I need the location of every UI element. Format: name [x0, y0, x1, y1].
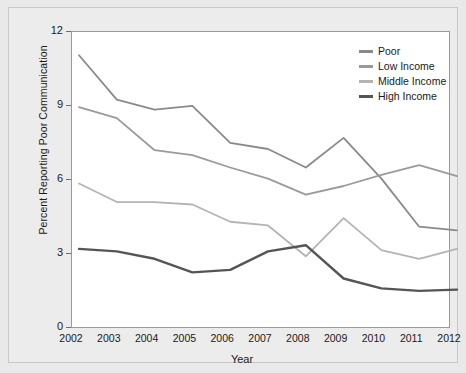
legend-label: High Income — [378, 90, 437, 102]
legend-item[interactable]: High Income — [359, 89, 446, 103]
series-line — [79, 184, 457, 259]
chart-legend: PoorLow IncomeMiddle IncomeHigh Income — [359, 44, 446, 104]
legend-item[interactable]: Low Income — [359, 59, 446, 73]
series-line — [79, 107, 457, 195]
legend-swatch-icon — [359, 80, 373, 83]
x-axis-title: Year — [9, 353, 466, 365]
legend-item[interactable]: Middle Income — [359, 74, 446, 88]
legend-label: Middle Income — [378, 75, 446, 87]
legend-swatch-icon — [359, 50, 373, 53]
legend-swatch-icon — [359, 95, 373, 98]
chart-figure: Percent Reporting Poor Communication 036… — [0, 0, 466, 373]
legend-swatch-icon — [359, 65, 373, 68]
series-line — [79, 245, 457, 291]
figure-frame: Percent Reporting Poor Communication 036… — [8, 7, 458, 363]
legend-item[interactable]: Poor — [359, 44, 446, 58]
legend-label: Low Income — [378, 60, 435, 72]
legend-label: Poor — [378, 45, 400, 57]
